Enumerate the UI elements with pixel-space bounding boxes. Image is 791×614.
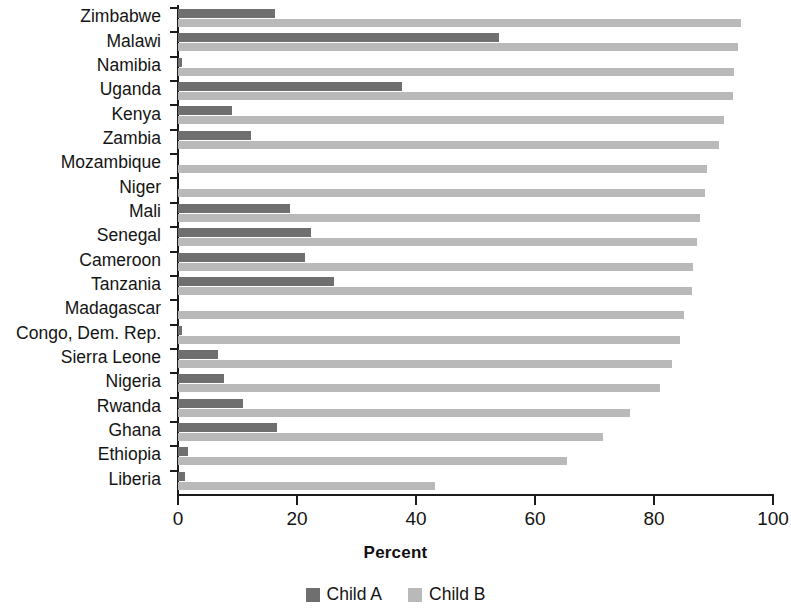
bar-child-b	[178, 433, 603, 441]
x-axis-tick	[534, 496, 536, 505]
bar-child-b	[178, 238, 697, 246]
bar-child-b	[178, 141, 719, 149]
category-label: Namibia	[97, 57, 161, 75]
category-label: Zambia	[103, 130, 161, 148]
category-label: Mali	[129, 203, 161, 221]
bar-group	[178, 277, 773, 301]
category-label: Niger	[119, 179, 161, 197]
y-axis-tick	[170, 397, 178, 399]
y-axis-tick	[170, 202, 178, 204]
y-axis-tick	[170, 56, 178, 58]
legend-swatch-icon	[408, 588, 422, 602]
x-axis-tick-label: 0	[173, 508, 184, 530]
bar-child-b	[178, 19, 741, 27]
bar-group	[178, 399, 773, 423]
x-axis-tick-label: 20	[286, 508, 307, 530]
bar-child-b	[178, 116, 724, 124]
y-axis-tick	[170, 470, 178, 472]
bar-child-a	[178, 58, 182, 67]
bar-child-b	[178, 336, 680, 344]
bar-child-b	[178, 287, 692, 295]
x-axis-tick	[415, 496, 417, 505]
bar-group	[178, 374, 773, 398]
x-axis-title: Percent	[0, 543, 791, 563]
bar-child-b	[178, 409, 630, 417]
y-axis-tick	[170, 226, 178, 228]
bar-group	[178, 131, 773, 155]
legend-label: Child A	[327, 586, 382, 604]
bar-group	[178, 82, 773, 106]
category-label: Zimbabwe	[80, 8, 161, 26]
bar-group	[178, 350, 773, 374]
bar-child-a	[178, 399, 243, 408]
x-axis-tick-label: 40	[405, 508, 426, 530]
y-axis-tick	[170, 421, 178, 423]
plot-area	[178, 6, 773, 493]
category-label: Mozambique	[61, 155, 161, 173]
category-label: Ghana	[108, 422, 161, 440]
bar-child-a	[178, 9, 275, 18]
legend-swatch-icon	[306, 588, 320, 602]
bar-group	[178, 204, 773, 228]
bar-child-b	[178, 482, 435, 490]
bar-child-a	[178, 33, 499, 42]
y-axis-tick	[170, 177, 178, 179]
x-axis-tick	[296, 496, 298, 505]
bar-child-b	[178, 311, 684, 319]
y-axis-tick	[170, 445, 178, 447]
x-axis-tick	[772, 496, 774, 505]
category-label: Sierra Leone	[61, 349, 161, 367]
x-axis-tick	[653, 496, 655, 505]
bar-group	[178, 253, 773, 277]
bar-child-a	[178, 82, 402, 91]
y-axis-tick	[170, 348, 178, 350]
bar-child-b	[178, 189, 705, 197]
x-axis-tick-label: 80	[643, 508, 664, 530]
y-axis-tick	[170, 31, 178, 33]
chart-legend: Child AChild B	[0, 586, 791, 604]
category-label: Madagascar	[65, 301, 161, 319]
bar-group	[178, 301, 773, 325]
bar-group	[178, 472, 773, 496]
bar-child-b	[178, 43, 738, 51]
legend-item: Child A	[306, 586, 382, 604]
horizontal-bar-chart: ZimbabweMalawiNamibiaUgandaKenyaZambiaMo…	[0, 0, 791, 614]
bar-group	[178, 423, 773, 447]
category-label: Rwanda	[97, 398, 161, 416]
y-axis-tick	[170, 299, 178, 301]
bar-child-a	[178, 106, 232, 115]
bar-child-b	[178, 384, 660, 392]
x-axis-tick-label: 60	[524, 508, 545, 530]
bar-child-a	[178, 253, 305, 262]
bar-child-b	[178, 68, 734, 76]
x-axis-tick-label: 100	[757, 508, 789, 530]
bar-group	[178, 106, 773, 130]
y-axis-tick	[170, 324, 178, 326]
bar-child-a	[178, 423, 277, 432]
y-axis-tick	[170, 372, 178, 374]
y-axis-tick	[170, 275, 178, 277]
y-axis-tick	[170, 7, 178, 9]
bar-child-a	[178, 350, 218, 359]
category-label: Malawi	[107, 33, 161, 51]
category-label: Uganda	[100, 81, 161, 99]
category-label: Cameroon	[79, 252, 161, 270]
bar-child-a	[178, 472, 185, 481]
bar-child-b	[178, 457, 567, 465]
bar-child-a	[178, 204, 290, 213]
y-axis-tick	[170, 153, 178, 155]
bar-child-b	[178, 214, 700, 222]
bar-child-a	[178, 277, 334, 286]
bar-group	[178, 58, 773, 82]
bar-child-a	[178, 131, 251, 140]
legend-item: Child B	[408, 586, 485, 604]
bar-child-b	[178, 360, 672, 368]
bar-group	[178, 9, 773, 33]
category-label: Congo, Dem. Rep.	[16, 325, 161, 343]
x-axis-tick	[177, 496, 179, 505]
bar-child-b	[178, 165, 707, 173]
bar-child-a	[178, 374, 224, 383]
bar-child-a	[178, 326, 182, 335]
bar-child-b	[178, 263, 693, 271]
legend-label: Child B	[429, 586, 485, 604]
